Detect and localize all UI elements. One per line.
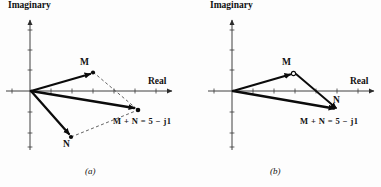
panel-a-label-m: M bbox=[80, 58, 89, 68]
panel-b-label-n: N bbox=[333, 96, 340, 106]
panel-a-imaginary-axis-label: Imaginary bbox=[8, 1, 51, 11]
panel-a-caption: (a) bbox=[85, 167, 96, 176]
panel-b-label-m: M bbox=[282, 58, 291, 68]
panel-b-real-axis-label: Real bbox=[350, 77, 368, 87]
panel-a-label-n: N bbox=[63, 140, 70, 150]
panel-a-point-m bbox=[91, 70, 95, 74]
figure-container: Imaginary Real M N M + N = 5 − j1 (a) Im… bbox=[0, 0, 381, 187]
panel-a-label-resultant: M + N = 5 − j1 bbox=[113, 117, 171, 126]
panel-a-vector-m bbox=[31, 74, 90, 91]
panel-b-point-m bbox=[291, 71, 295, 75]
panel-b-caption: (b) bbox=[270, 167, 281, 176]
panel-b-label-resultant: M + N = 5 − j1 bbox=[300, 117, 358, 126]
panel-a-point-sum bbox=[136, 108, 141, 113]
panel-b-imaginary-axis-label: Imaginary bbox=[210, 1, 253, 11]
panel-b-vector-m bbox=[233, 75, 290, 92]
panel-a-real-axis-label: Real bbox=[148, 77, 166, 87]
complex-plane-diagram bbox=[0, 0, 381, 187]
